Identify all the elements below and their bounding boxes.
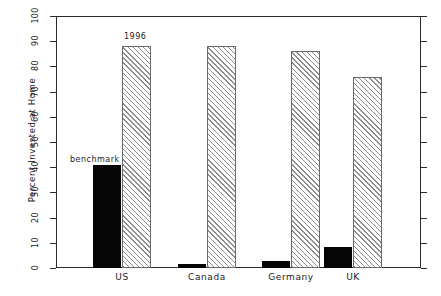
bar-benchmark-us	[93, 165, 121, 268]
x-tick-label-uk: UK	[323, 272, 383, 282]
y-tick-right-60	[421, 117, 427, 118]
y-tick-right-0	[421, 268, 427, 269]
y-tick-right-70	[421, 92, 427, 93]
bar-benchmark-uk	[324, 247, 352, 268]
bar-benchmark-germany	[262, 261, 290, 268]
y-tick-label-70: 70	[31, 76, 40, 106]
annotation-1996: 1996	[124, 32, 146, 41]
y-tick-right-80	[421, 66, 427, 67]
x-tick-label-canada: Canada	[177, 272, 237, 282]
y-tick-right-10	[421, 243, 427, 244]
y-tick-right-30	[421, 192, 427, 193]
bar-benchmark-canada	[178, 264, 206, 269]
annotation-benchmark: benchmark	[70, 155, 120, 164]
bar-chart: Percent Invested at Home 0 10 20 30 40 5…	[0, 0, 441, 296]
bar-1996-canada	[207, 46, 236, 268]
y-tick-label-20: 20	[31, 202, 40, 232]
y-tick-label-100: 100	[31, 1, 40, 31]
y-tick-right-90	[421, 41, 427, 42]
bar-1996-uk	[353, 77, 382, 269]
x-tick-label-germany: Germany	[261, 272, 321, 282]
y-tick-right-100	[421, 16, 427, 17]
y-tick-right-20	[421, 218, 427, 219]
bar-1996-us	[122, 46, 151, 268]
x-tick-label-us: US	[92, 272, 152, 282]
y-tick-0	[50, 268, 56, 269]
y-tick-right-50	[421, 142, 427, 143]
y-tick-right-40	[421, 167, 427, 168]
bar-1996-germany	[291, 51, 320, 268]
